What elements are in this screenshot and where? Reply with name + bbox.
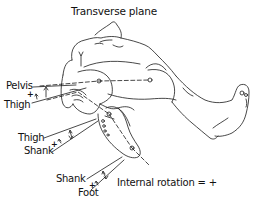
label-thigh-1: Thigh xyxy=(4,100,30,110)
sign-pelvis-thigh: + xyxy=(27,91,34,99)
label-shank-2: Shank xyxy=(56,174,85,184)
head-outline xyxy=(95,22,121,38)
left-arm xyxy=(61,75,73,108)
label-foot: Foot xyxy=(78,188,98,198)
pelvis-marker-2 xyxy=(148,78,152,82)
transverse-plane-diagram: Transverse plane Pelvis + Thigh Thigh + … xyxy=(0,0,255,201)
foot-axis xyxy=(132,148,150,166)
left-thigh xyxy=(73,104,100,114)
thigh-leader-2 xyxy=(44,119,96,138)
body-figure-drawing xyxy=(0,0,255,201)
label-thigh-2: Thigh xyxy=(18,133,44,143)
shank-axis xyxy=(109,114,132,148)
shorts-outline xyxy=(78,70,112,104)
sign-convention-note: Internal rotation = + xyxy=(117,178,217,188)
pelvis-leader xyxy=(33,85,76,87)
thigh-leader-1 xyxy=(32,88,86,103)
label-shank-1: Shank xyxy=(24,146,53,156)
diagram-title: Transverse plane xyxy=(71,6,157,17)
pelvis-axis xyxy=(40,80,150,86)
right-leg xyxy=(176,76,249,136)
shank-leader-1 xyxy=(52,121,98,152)
